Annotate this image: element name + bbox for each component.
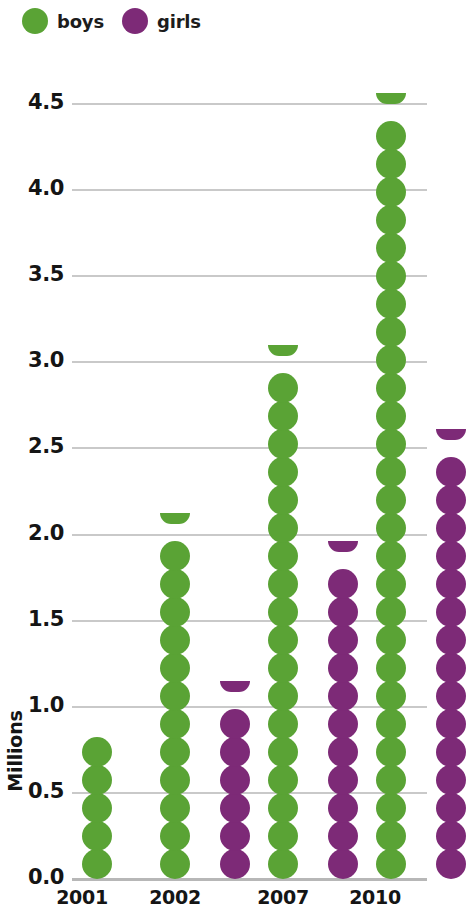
data-dot [436,597,466,627]
data-dot [436,513,466,543]
data-dot [160,709,190,739]
gridline-0.5 [72,792,427,794]
data-dot [376,541,406,571]
data-dot [82,765,112,795]
data-dot [436,681,466,711]
x-tick-label-2001: 2001 [37,886,127,908]
data-dot [268,457,298,487]
gridline-4.5 [72,103,427,105]
data-dot [220,821,250,851]
gridline-1.0 [72,706,427,708]
data-dot [436,625,466,655]
data-dot [268,681,298,711]
data-dot [376,793,406,823]
data-dot [328,541,358,552]
data-dot [82,737,112,767]
data-dot [160,569,190,599]
data-dot [268,485,298,515]
data-dot [328,709,358,739]
data-dot [268,401,298,431]
data-dot [376,821,406,851]
data-dot [436,541,466,571]
data-dot [376,625,406,655]
y-tick-label-3.5: 3.5 [0,262,64,286]
data-dot [220,737,250,767]
data-dot [160,653,190,683]
data-dot [376,569,406,599]
data-dot [160,737,190,767]
data-dot [160,513,190,524]
data-dot [376,317,406,347]
data-dot [436,485,466,515]
data-dot [220,849,250,879]
x-tick-label-2007: 2007 [238,886,328,908]
gridline-3.5 [72,275,427,277]
data-dot [82,793,112,823]
data-dot [160,597,190,627]
data-dot [82,849,112,879]
data-dot [436,793,466,823]
data-dot [160,541,190,571]
y-tick-label-2.0: 2.0 [0,521,64,545]
data-dot [328,625,358,655]
data-dot [376,513,406,543]
data-dot [328,821,358,851]
y-tick-label-2.5: 2.5 [0,434,64,458]
data-dot [376,149,406,179]
data-dot [268,849,298,879]
data-dot [328,737,358,767]
data-dot [376,261,406,291]
data-dot [220,765,250,795]
data-dot [268,429,298,459]
data-dot [328,793,358,823]
data-dot [376,345,406,375]
data-dot [436,737,466,767]
y-tick-label-1.5: 1.5 [0,607,64,631]
gridline-3.0 [72,361,427,363]
data-dot [328,765,358,795]
y-tick-label-4.0: 4.0 [0,176,64,200]
data-dot [328,653,358,683]
data-dot [376,681,406,711]
data-dot [436,429,466,440]
data-dot [376,457,406,487]
data-dot [436,569,466,599]
data-dot [328,849,358,879]
data-dot [376,765,406,795]
y-tick-label-4.5: 4.5 [0,90,64,114]
data-dot [328,569,358,599]
data-dot [160,821,190,851]
data-dot [268,345,298,356]
data-dot [328,681,358,711]
data-dot [436,821,466,851]
gridline-2.0 [72,534,427,536]
gridline-4.0 [72,189,427,191]
data-dot [220,793,250,823]
y-tick-label-3.0: 3.0 [0,348,64,372]
data-dot [220,709,250,739]
data-dot [436,709,466,739]
data-dot [268,765,298,795]
data-dot [268,709,298,739]
data-dot [376,849,406,879]
data-dot [376,653,406,683]
gridline-2.5 [72,447,427,449]
data-dot [328,597,358,627]
data-dot [436,765,466,795]
data-dot [82,821,112,851]
data-dot [376,401,406,431]
data-dot [376,597,406,627]
data-dot [268,737,298,767]
data-dot [376,709,406,739]
data-dot [376,485,406,515]
x-tick-label-2002: 2002 [130,886,220,908]
data-dot [268,793,298,823]
data-dot [160,793,190,823]
data-dot [268,597,298,627]
data-dot [268,513,298,543]
data-dot [160,849,190,879]
data-dot [376,373,406,403]
y-axis-title: Millions [4,703,26,799]
data-dot [220,681,250,692]
